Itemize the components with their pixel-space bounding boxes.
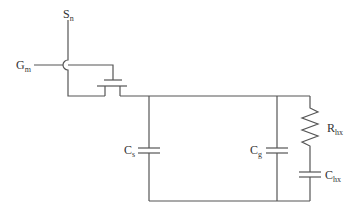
label-gm: Gm [16,58,32,74]
label-cs: Cs [124,143,135,159]
label-chx: Chx [325,168,341,184]
cg-capacitor [266,96,288,201]
rhx-resistor [302,96,318,172]
label-cg: Cg [250,143,262,159]
gate-wire [34,65,113,80]
circuit-diagram: Sn Gm Cs Cg Rhx Chx [0,0,356,212]
chx-capacitor [299,172,321,201]
cs-capacitor [138,96,160,201]
label-rhx: Rhx [327,121,343,137]
source-wire [63,20,105,96]
label-sn: Sn [63,7,74,23]
transistor-symbol [97,80,127,96]
